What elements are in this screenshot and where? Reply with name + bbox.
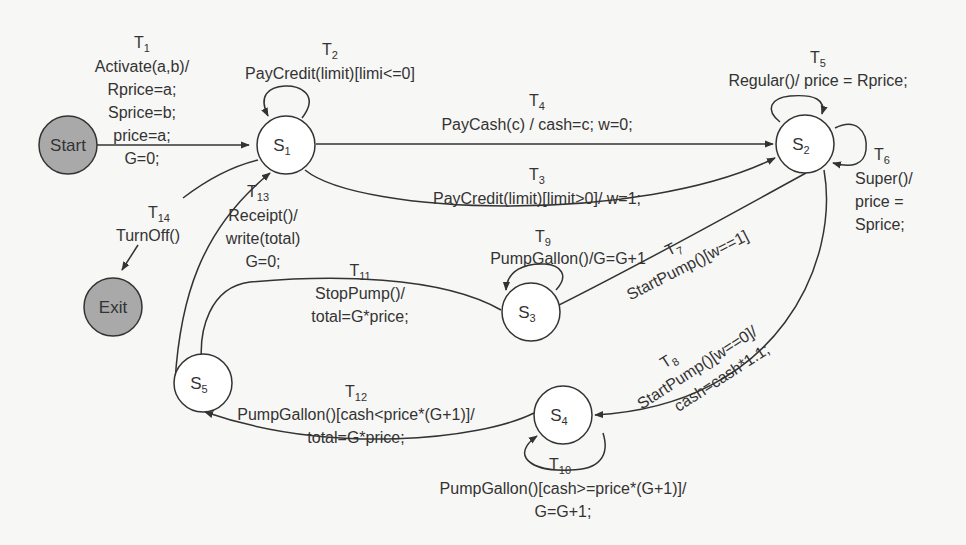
svg-text:total=G*price;: total=G*price;	[307, 429, 404, 446]
svg-text:PayCash(c) / cash=c; w=0;: PayCash(c) / cash=c; w=0;	[441, 116, 632, 133]
label-t1: T1 Activate(a,b)/ Rprice=a; Sprice=b; pr…	[95, 34, 190, 167]
node-start-label: Start	[50, 136, 86, 155]
node-s3[interactable]: S3	[502, 283, 560, 341]
node-s1-sub: 1	[285, 145, 291, 157]
label-t11: T11 StopPump()/ total=G*price;	[311, 262, 408, 325]
node-s3-sub: 3	[530, 312, 536, 324]
node-s4-sub: 4	[562, 415, 568, 427]
label-t3: T3 PayCredit(limit)[limit>0]/ w=1;	[433, 166, 641, 207]
svg-text:T1: T1	[134, 34, 150, 54]
svg-text:T6: T6	[874, 146, 890, 166]
edge-t6	[833, 124, 866, 165]
edge-t13	[175, 173, 270, 382]
edge-t14-arrow	[122, 245, 138, 270]
node-s2-label: S	[792, 135, 803, 154]
svg-text:T3: T3	[529, 166, 545, 186]
svg-text:price=a;: price=a;	[113, 127, 170, 144]
svg-text:Super()/: Super()/	[855, 170, 913, 187]
svg-text:Receipt()/: Receipt()/	[228, 207, 298, 224]
label-t2: T2 PayCredit(limit)[limi<=0]	[245, 41, 415, 82]
svg-text:Rprice=a;: Rprice=a;	[108, 81, 177, 98]
label-t13: T13 Receipt()/ write(total) G=0;	[225, 183, 301, 270]
node-exit[interactable]: Exit	[84, 278, 142, 336]
svg-text:T13: T13	[247, 183, 269, 203]
label-t8: T8 StartPump()[w==0]/ cash=cash*1.1;	[622, 304, 772, 431]
svg-text:TurnOff(): TurnOff()	[116, 227, 180, 244]
svg-text:T12: T12	[345, 383, 367, 403]
label-t4: T4 PayCash(c) / cash=c; w=0;	[441, 92, 632, 133]
svg-text:T2: T2	[322, 41, 338, 61]
node-s5[interactable]: S5	[174, 354, 232, 412]
svg-text:PayCredit(limit)[limit>0]/ w=1: PayCredit(limit)[limit>0]/ w=1;	[433, 190, 641, 207]
svg-text:PumpGallon()/G=G+1: PumpGallon()/G=G+1	[490, 250, 646, 267]
svg-text:G=G+1;: G=G+1;	[535, 503, 592, 520]
svg-text:Activate(a,b)/: Activate(a,b)/	[95, 58, 190, 75]
label-t6: T6 Super()/ price = Sprice;	[855, 146, 913, 233]
svg-text:T9: T9	[535, 228, 551, 248]
svg-text:write(total): write(total)	[225, 230, 301, 247]
svg-text:price =: price =	[855, 193, 903, 210]
node-s1-label: S	[273, 136, 284, 155]
node-s4[interactable]: S4	[534, 386, 592, 444]
node-s4-label: S	[550, 406, 561, 425]
label-t9: T9 PumpGallon()/G=G+1	[490, 228, 646, 267]
svg-text:PumpGallon()[cash<price*(G+1)]: PumpGallon()[cash<price*(G+1)]/	[237, 406, 475, 423]
label-t14: T14 TurnOff()	[116, 204, 180, 244]
label-t5: T5 Regular()/ price = Rprice;	[728, 49, 907, 89]
svg-text:PayCredit(limit)[limi<=0]: PayCredit(limit)[limi<=0]	[245, 65, 415, 82]
svg-text:G=0;: G=0;	[124, 150, 159, 167]
svg-text:Sprice=b;: Sprice=b;	[108, 104, 176, 121]
node-s1[interactable]: S1	[257, 116, 315, 174]
svg-text:Regular()/ price = Rprice;: Regular()/ price = Rprice;	[728, 72, 907, 89]
svg-text:T14: T14	[148, 204, 170, 224]
node-s2-sub: 2	[804, 144, 810, 156]
svg-text:T10: T10	[549, 456, 571, 476]
svg-text:Sprice;: Sprice;	[855, 216, 905, 233]
node-start[interactable]: Start	[39, 116, 97, 174]
svg-text:StopPump()/: StopPump()/	[315, 285, 405, 302]
node-s5-sub: 5	[202, 383, 208, 395]
state-machine-diagram: Start Exit S1 S2 S3 S4 S5 T1 Activate(a,…	[0, 0, 966, 545]
svg-text:T5: T5	[810, 49, 826, 69]
edge-t2	[264, 86, 309, 118]
node-s5-label: S	[190, 374, 201, 393]
label-t10: T10 PumpGallon()[cash>=price*(G+1)]/ G=G…	[440, 456, 687, 520]
svg-text:PumpGallon()[cash>=price*(G+1): PumpGallon()[cash>=price*(G+1)]/	[440, 480, 687, 497]
svg-text:total=G*price;: total=G*price;	[311, 308, 408, 325]
svg-text:G=0;: G=0;	[245, 253, 280, 270]
node-s2[interactable]: S2	[776, 115, 834, 173]
node-exit-label: Exit	[99, 298, 128, 317]
svg-text:T4: T4	[529, 92, 545, 112]
node-s3-label: S	[518, 303, 529, 322]
